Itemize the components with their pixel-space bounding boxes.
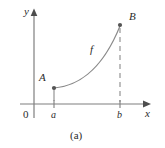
y-axis-label: y <box>24 6 29 17</box>
tick-label-b: b <box>117 110 122 120</box>
figure-panel: y x 0 a b A B f (a) <box>0 0 165 148</box>
curve-label-f: f <box>90 44 93 55</box>
y-axis-arrowhead <box>31 9 38 17</box>
point-label-a: A <box>39 72 46 83</box>
origin-label: 0 <box>23 109 29 120</box>
point-marker-a <box>52 86 56 90</box>
point-label-b: B <box>129 11 136 22</box>
figure-caption: (a) <box>70 130 82 141</box>
curve-f <box>54 26 120 88</box>
x-axis-label: x <box>145 108 150 119</box>
point-marker-b <box>118 23 122 27</box>
tick-label-a: a <box>51 110 56 120</box>
figure-canvas <box>0 0 165 148</box>
